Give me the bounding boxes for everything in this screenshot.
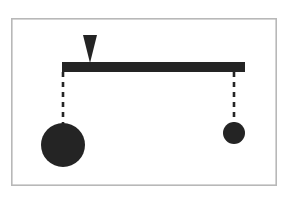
diagram-canvas	[0, 0, 300, 211]
lever-balance-figure: Lever balance with fulcrum and two hangi…	[0, 0, 300, 211]
right-mass	[223, 122, 245, 144]
left-mass	[41, 123, 85, 167]
lever-beam	[62, 62, 245, 72]
